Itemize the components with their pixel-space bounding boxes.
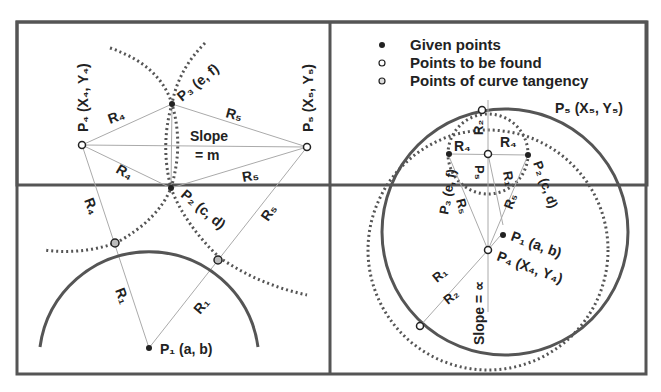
label-p4: P₄ (X₄, Y₄) <box>75 63 91 132</box>
label-p2: P₂ (c, d) <box>178 186 229 232</box>
legend-label-tangency: Points of curve tangency <box>410 72 589 89</box>
label-r4-c: R₄ <box>81 196 102 217</box>
label-r5-right: R₅ <box>501 191 520 211</box>
label-r1-b: R₁ <box>190 294 213 317</box>
label-p1: P₁ (a, b) <box>160 341 212 357</box>
legend-marker-found <box>379 60 385 66</box>
right-diagram: Given points Points to be found Points o… <box>368 36 628 370</box>
point-p1-given <box>146 345 152 351</box>
point-p5-center <box>485 151 492 158</box>
label-r4-left: R₄ <box>454 138 471 154</box>
label-p3: P₃ (e, f) <box>174 60 222 104</box>
point-p4-open <box>485 247 492 254</box>
label-r2-low: R₂ <box>440 286 461 307</box>
point-p3-given <box>446 151 452 157</box>
diagram-canvas: P₄ (X₄, Y₄) P₅ (X₅, Y₅) P₃ (e, f) P₂ (c,… <box>0 0 661 392</box>
label-r1-low: R₁ <box>429 264 450 285</box>
point-p2-given <box>525 152 531 158</box>
label-r4-a: R₄ <box>106 106 127 127</box>
legend-marker-tangency <box>379 78 385 84</box>
label-slope-1: Slope <box>190 128 228 144</box>
tangency-point-top <box>479 107 486 114</box>
label-r5-left: R₅ <box>453 197 471 216</box>
label-p5: P₅ (X₅, Y₅) <box>300 64 316 132</box>
tangency-point-bottom <box>417 323 424 330</box>
arc-r1 <box>40 252 258 347</box>
legend: Given points Points to be found Points o… <box>379 36 589 89</box>
label-r2-top: R₂ <box>471 120 486 135</box>
label-r5-c: R₅ <box>257 201 280 224</box>
label-slope-2: = m <box>195 147 220 163</box>
tangency-point-left <box>111 239 119 247</box>
label-slope: Slope = ∝ <box>471 281 487 345</box>
dotted-arc-r4 <box>45 48 178 251</box>
label-p5-center: P₅ <box>472 165 487 180</box>
legend-label-found: Points to be found <box>410 54 542 71</box>
legend-marker-given <box>379 42 385 48</box>
legend-label-given: Given points <box>410 36 501 53</box>
tangency-point-right <box>214 256 222 264</box>
label-p5-outer: P₅ (X₅, Y₅) <box>555 100 623 116</box>
point-p4-open <box>79 142 86 149</box>
label-r5-b: R₅ <box>241 166 260 185</box>
point-p2-given <box>168 185 174 191</box>
frame-top <box>17 22 647 185</box>
point-p3-given <box>169 101 175 107</box>
label-r4-b: R₄ <box>114 161 137 183</box>
label-r4-right: R₄ <box>500 134 517 150</box>
left-diagram: P₄ (X₄, Y₄) P₅ (X₅, Y₅) P₃ (e, f) P₂ (c,… <box>40 43 316 357</box>
point-p5-open <box>304 144 311 151</box>
point-p1-given <box>500 232 506 238</box>
label-r1-mid: R₁ <box>500 170 517 187</box>
